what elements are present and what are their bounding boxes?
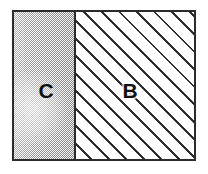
diagram-frame: C B (12, 10, 196, 161)
region-divider-line (74, 12, 76, 159)
region-c-label: C (37, 80, 55, 101)
diagram-canvas: C B (0, 0, 208, 174)
region-b-label: B (121, 80, 139, 101)
